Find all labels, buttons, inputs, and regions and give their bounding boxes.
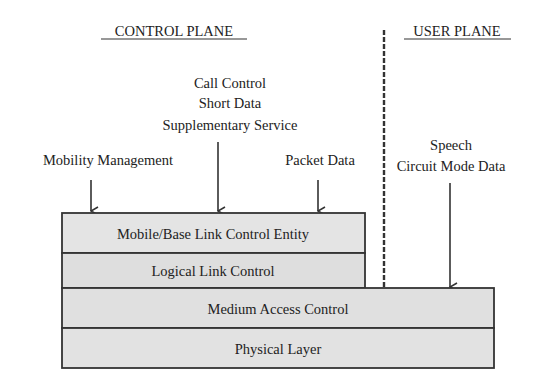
phy-layer-label: Physical Layer <box>235 341 322 357</box>
packet-data-label: Packet Data <box>285 152 355 168</box>
speech-label-group: Speech Circuit Mode Data <box>397 137 506 174</box>
layer-mle: Mobile/Base Link Control Entity <box>62 213 365 253</box>
control-plane-heading: CONTROL PLANE <box>101 23 247 39</box>
mac-layer-label: Medium Access Control <box>208 301 349 317</box>
protocol-stack-diagram: CONTROL PLANE USER PLANE Mobility Manage… <box>0 0 553 392</box>
call-control-label: Call Control <box>194 75 266 91</box>
speech-label: Speech <box>430 137 473 153</box>
user-plane-heading: USER PLANE <box>404 23 511 39</box>
layer-llc: Logical Link Control <box>62 253 365 288</box>
svg-text:USER PLANE: USER PLANE <box>413 23 501 39</box>
circuit-mode-data-label: Circuit Mode Data <box>397 158 506 174</box>
llc-layer-label: Logical Link Control <box>151 263 274 279</box>
mobility-management-label: Mobility Management <box>43 152 173 168</box>
layer-mac: Medium Access Control <box>62 288 494 328</box>
layer-phy: Physical Layer <box>62 328 494 368</box>
call-control-label-group: Call Control Short Data Supplementary Se… <box>163 75 298 133</box>
short-data-label: Short Data <box>199 95 262 111</box>
mle-layer-label: Mobile/Base Link Control Entity <box>117 226 310 242</box>
supplementary-service-label: Supplementary Service <box>163 117 298 133</box>
svg-text:CONTROL PLANE: CONTROL PLANE <box>115 23 233 39</box>
